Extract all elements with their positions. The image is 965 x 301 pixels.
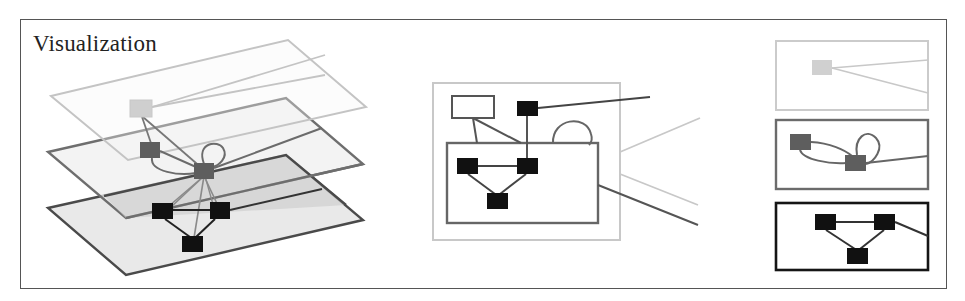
edge-top-node-out	[538, 97, 650, 108]
edge-left-bottom	[468, 174, 495, 194]
center-self-loop	[553, 121, 592, 145]
center-light-line-upper	[620, 118, 700, 152]
right-top-edge-1	[832, 60, 928, 68]
right-mid-node-b	[845, 155, 866, 171]
mid-node-a	[140, 142, 160, 158]
right-mid-node-a	[790, 134, 811, 150]
right-top-edge-2	[832, 68, 928, 93]
right-bottom-node-left	[815, 214, 836, 230]
bottom-node-c	[182, 236, 203, 252]
edge-right-bottom	[500, 174, 526, 194]
diagram-canvas	[0, 0, 965, 301]
bottom-node-a	[152, 203, 173, 219]
edge-hollow-to-inner-1	[473, 118, 477, 143]
right-bottom-node-bottom	[847, 248, 868, 264]
right-layer-middle	[776, 120, 928, 189]
right-layer-top	[776, 41, 928, 110]
mid-node-b	[194, 163, 214, 179]
right-bottom-edge-rb	[860, 230, 884, 249]
right-bottom-edge-out	[895, 222, 928, 236]
right-bottom-edge-lb	[826, 230, 855, 249]
center-light-line-lower	[620, 174, 698, 205]
right-mid-edge-lower	[800, 150, 846, 163]
center-node-left	[457, 158, 478, 174]
edge-inner-box-out	[598, 185, 698, 225]
right-bottom-node-right	[874, 214, 895, 230]
center-node-bottom	[487, 193, 508, 209]
center-top-node	[517, 101, 538, 116]
left-3d-panel	[48, 40, 366, 275]
top-node	[130, 100, 152, 117]
right-separated-panel	[776, 41, 928, 270]
center-inner-box	[447, 143, 598, 223]
right-mid-edge-upper	[811, 142, 852, 156]
center-nested-panel	[433, 83, 700, 240]
center-hollow-node	[452, 96, 494, 118]
bottom-node-b	[210, 202, 230, 219]
right-top-node	[812, 60, 832, 75]
edge-hollow-to-inner-2	[473, 118, 521, 143]
center-node-right	[517, 158, 538, 174]
